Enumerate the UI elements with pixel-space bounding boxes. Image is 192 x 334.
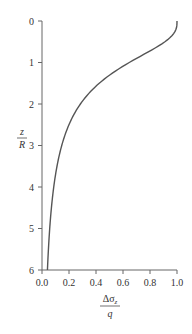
y-axis-label-numerator: z [19, 126, 24, 137]
y-tick-label: 4 [29, 182, 34, 193]
x-tick-label: 0.0 [36, 277, 49, 288]
x-tick-label: 0.4 [90, 277, 103, 288]
y-axis-ticks: 0123456 [29, 16, 42, 276]
y-tick-label: 5 [29, 223, 34, 234]
stress-depth-chart: 0123456 0.00.20.40.60.81.0 z R Δσz q [0, 0, 192, 334]
x-tick-label: 0.2 [63, 277, 76, 288]
y-axis-label-denominator: R [18, 139, 25, 150]
y-tick-label: 0 [29, 16, 34, 27]
x-axis-label-delta-sigma: Δσ [103, 293, 115, 304]
x-axis-ticks: 0.00.20.40.60.81.0 [36, 270, 184, 288]
x-axis-label-numerator: Δσz [103, 293, 118, 306]
x-tick-label: 0.8 [144, 277, 157, 288]
y-tick-label: 6 [29, 265, 34, 276]
y-axis-label: z R [17, 126, 27, 150]
x-tick-label: 0.6 [117, 277, 130, 288]
x-axis-label-denominator: q [108, 308, 113, 319]
x-tick-label: 1.0 [171, 277, 184, 288]
stress-curve [47, 21, 177, 270]
y-tick-label: 2 [29, 99, 34, 110]
x-axis-label: Δσz q [100, 293, 120, 319]
y-tick-label: 3 [29, 140, 34, 151]
y-tick-label: 1 [29, 57, 34, 68]
x-axis-label-subscript: z [114, 298, 118, 306]
